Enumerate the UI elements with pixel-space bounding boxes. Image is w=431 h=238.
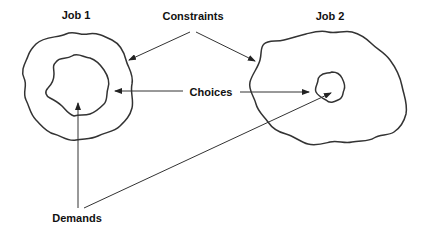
job1-label: Job 1 — [62, 9, 91, 21]
job2-constraints-boundary — [250, 31, 407, 145]
job2-label: Job 2 — [316, 10, 345, 22]
constraints-arrow-job2 — [196, 32, 255, 61]
constraints-label: Constraints — [162, 10, 223, 22]
job1-demands-core — [46, 55, 109, 116]
job-constraints-choices-demands-diagram: Job 1 Job 2 Constraints Choices Demands — [0, 0, 431, 238]
constraints-arrow-job1 — [129, 32, 190, 60]
demands-label: Demands — [52, 212, 102, 224]
demands-arrow-job2 — [84, 93, 331, 208]
choices-label: Choices — [190, 86, 233, 98]
